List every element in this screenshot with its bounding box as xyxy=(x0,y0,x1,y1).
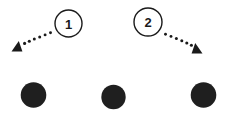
dotted-arrow-left xyxy=(12,31,52,51)
arrow-dot xyxy=(49,31,52,34)
arrow-dot xyxy=(170,35,173,38)
step-badge-2[interactable]: 2 xyxy=(134,8,162,36)
arrow-dot xyxy=(185,41,188,44)
step-badge-2-label: 2 xyxy=(144,15,151,30)
filled-dot-left[interactable] xyxy=(21,82,47,108)
arrowhead-right xyxy=(192,43,203,54)
diagram-canvas: 1 2 xyxy=(0,0,231,120)
step-badge-1-label: 1 xyxy=(65,17,72,32)
filled-dot-middle[interactable] xyxy=(101,85,125,109)
arrow-dot xyxy=(164,33,167,36)
arrowhead-left xyxy=(12,41,23,52)
step-badge-1[interactable]: 1 xyxy=(55,10,82,37)
filled-dot-right[interactable] xyxy=(191,82,217,108)
dotted-arrow-right xyxy=(164,33,202,54)
arrow-dot xyxy=(33,38,36,41)
arrow-dot xyxy=(175,37,178,40)
arrow-dot xyxy=(44,33,47,36)
arrow-dot xyxy=(38,36,41,39)
arrow-dot xyxy=(23,42,26,45)
arrow-dot xyxy=(190,44,193,47)
diagram-svg: 1 2 xyxy=(0,0,231,120)
arrow-dot xyxy=(28,40,31,43)
arrow-dot xyxy=(180,39,183,42)
